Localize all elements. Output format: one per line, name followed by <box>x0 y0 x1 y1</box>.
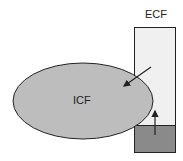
fluid-compartment-diagram <box>0 0 183 161</box>
icf-label: ICF <box>73 94 91 106</box>
ecf-label: ECF <box>145 8 167 20</box>
